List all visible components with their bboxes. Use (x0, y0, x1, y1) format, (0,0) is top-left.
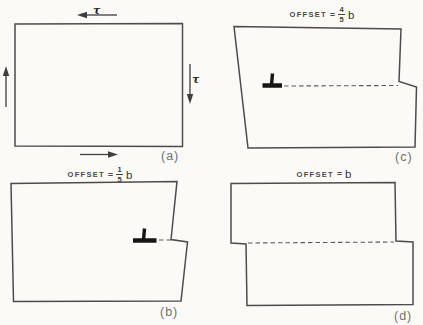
panel-c-crystal (234, 27, 417, 149)
panel-c-offset-title: OFFSET = 4 5 b (283, 3, 361, 26)
fraction-numerator-c: 4 (338, 6, 345, 14)
panel-label-a: (a) (161, 150, 179, 163)
offset-fraction-c: 4 5 (338, 6, 345, 24)
equals-sign-d: = (337, 169, 342, 179)
panel-label-c: (c) (395, 151, 413, 164)
edge-dislocation-icon-b (133, 229, 157, 241)
burgers-vector-label-b: b (126, 169, 132, 181)
crystal-outline-d (231, 183, 413, 306)
slip-plane-dashed-line-c (284, 86, 398, 87)
dislocation-shear-figure: τ τ OFFSET = 4 5 b OFFSET = 1 5 b OFFSET… (0, 0, 423, 325)
panel-label-b: (b) (160, 306, 178, 319)
panel-b-crystal (11, 182, 188, 302)
crystal-outline-c (234, 27, 417, 149)
offset-label-d: OFFSET (297, 170, 334, 179)
panel-d-offset-title: OFFSET = b (292, 167, 356, 181)
crystal-outline-b (11, 182, 188, 302)
fraction-numerator-b: 1 (116, 166, 123, 174)
offset-label-c: OFFSET (290, 10, 327, 19)
burgers-vector-label-d: b (345, 168, 351, 180)
panel-d-crystal (231, 183, 413, 306)
equals-sign-c: = (330, 10, 335, 20)
edge-dislocation-icon-c (263, 74, 283, 86)
fraction-denominator-b: 5 (116, 174, 123, 184)
fraction-denominator-c: 5 (338, 14, 345, 24)
crystal-outline-a (15, 24, 183, 147)
shear-arrow-left (3, 66, 9, 107)
equals-sign-b: = (108, 170, 113, 180)
offset-label-b: OFFSET (68, 170, 105, 179)
offset-fraction-b: 1 5 (116, 166, 123, 184)
panel-a-crystal (3, 12, 193, 158)
panel-b-offset-title: OFFSET = 1 5 b (60, 163, 140, 186)
shear-arrow-bottom (80, 151, 118, 157)
tau-label-right: τ (192, 74, 199, 85)
tau-label-top: τ (93, 5, 100, 16)
panel-label-d: (d) (394, 310, 412, 323)
burgers-vector-label-c: b (348, 9, 354, 21)
slip-plane-dashed-line-d (248, 242, 394, 243)
